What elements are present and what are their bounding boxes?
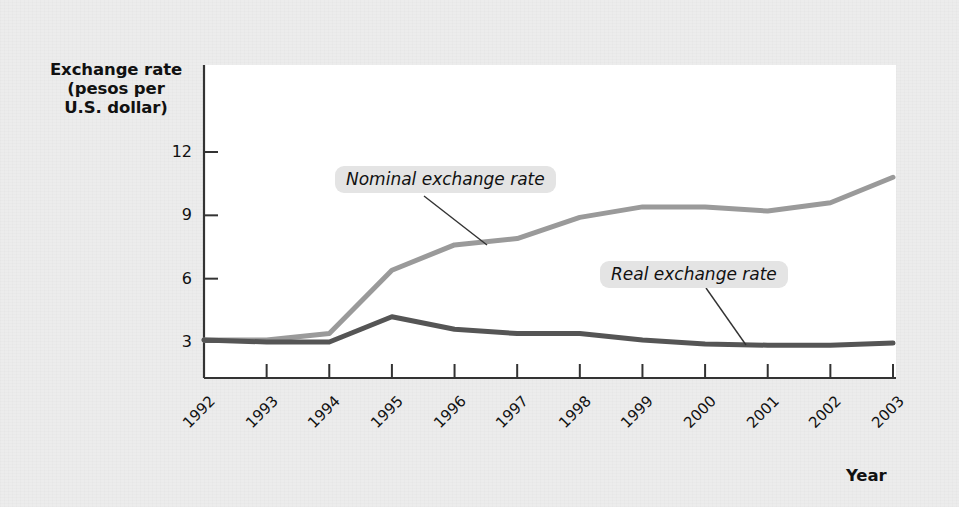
x-axis-title: Year [846, 466, 887, 485]
series-label-nominal: Nominal exchange rate [335, 166, 556, 193]
y-tick-label: 3 [152, 332, 192, 351]
y-tick-label: 6 [152, 269, 192, 288]
axes [204, 65, 896, 378]
exchange-rate-line-chart: Exchange rate (pesos per U.S. dollar) Ye… [0, 0, 959, 507]
series-line-nominal [204, 177, 893, 340]
y-tick-label: 12 [152, 142, 192, 161]
y-axis-title-line-3: U.S. dollar) [36, 98, 196, 117]
y-tick-marks [204, 152, 218, 342]
series-line-real [204, 317, 893, 346]
y-tick-label: 9 [152, 205, 192, 224]
leader-line-real [706, 288, 746, 345]
y-axis-title: Exchange rate (pesos per U.S. dollar) [36, 60, 196, 117]
y-axis-title-line-1: Exchange rate [36, 60, 196, 79]
y-axis-title-line-2: (pesos per [36, 79, 196, 98]
x-tick-marks [204, 364, 893, 378]
series-lines [204, 177, 893, 345]
leader-line-nominal [424, 196, 487, 245]
series-label-real: Real exchange rate [600, 261, 788, 288]
